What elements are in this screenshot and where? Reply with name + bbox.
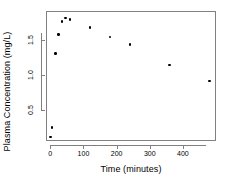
x-axis-title: Time (minutes) — [46, 164, 216, 174]
data-point — [61, 20, 64, 23]
data-point — [49, 136, 52, 139]
scatter-plot-figure: Plasma Concentration (mg/L) Time (minute… — [0, 0, 227, 183]
x-tick-300 — [150, 145, 151, 149]
y-tick-label-1.0: 1.0 — [25, 67, 35, 83]
y-tick-0.5 — [41, 110, 45, 111]
data-point — [168, 64, 171, 67]
data-point — [64, 17, 67, 20]
x-tick-400 — [183, 145, 184, 149]
y-tick-1.5 — [41, 40, 45, 41]
y-axis-title: Plasma Concentration (mg/L) — [0, 0, 14, 183]
y-tick-label-1.5: 1.5 — [25, 32, 35, 48]
data-point — [54, 52, 57, 55]
data-point — [57, 33, 60, 36]
y-tick-label-0.5: 0.5 — [25, 102, 35, 118]
x-tick-100 — [83, 145, 84, 149]
x-tick-200 — [117, 145, 118, 149]
x-tick-label-200: 200 — [105, 150, 129, 157]
x-tick-label-400: 400 — [171, 150, 195, 157]
y-axis-line — [41, 33, 42, 111]
x-tick-label-100: 100 — [71, 150, 95, 157]
plot-area — [46, 11, 216, 141]
data-point — [208, 80, 211, 83]
data-point — [129, 43, 132, 46]
x-tick-label-300: 300 — [138, 150, 162, 157]
y-tick-1.0 — [41, 75, 45, 76]
x-tick-0 — [50, 145, 51, 149]
x-tick-label-0: 0 — [38, 150, 62, 157]
